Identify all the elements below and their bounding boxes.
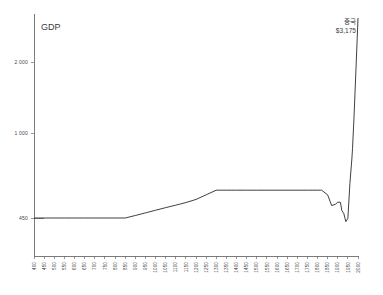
chart-canvas: 2 0001 000450 40045050055060065070075080… xyxy=(0,0,383,295)
x-tick-label: 1300 xyxy=(214,262,219,273)
x-tick-label: 1150 xyxy=(184,262,189,273)
x-axis-group: 4004505005506006507007508008509009501000… xyxy=(32,256,361,273)
y-tick-label: 2 000 xyxy=(14,59,28,65)
x-tick-label: 450 xyxy=(42,262,47,270)
x-tick-label: 500 xyxy=(52,262,57,270)
y-tick-group: 2 0001 000450 xyxy=(14,59,44,221)
x-tick-label: 1200 xyxy=(194,262,199,273)
x-tick-label: 1700 xyxy=(295,262,300,273)
x-tick-label: 2000 xyxy=(356,262,361,273)
x-tick-group: 4004505005506006507007508008509009501000… xyxy=(32,256,361,273)
x-tick-label: 1550 xyxy=(265,262,270,273)
x-tick-label: 800 xyxy=(113,262,118,270)
x-tick-label: 550 xyxy=(62,262,67,270)
x-tick-label: 1850 xyxy=(325,262,330,273)
gdp-chart: 2 0001 000450 40045050055060065070075080… xyxy=(0,0,383,295)
x-tick-label: 1950 xyxy=(346,262,351,273)
y-tick-label: 1 000 xyxy=(14,130,28,136)
china-annotation-label: 중국 xyxy=(344,18,356,26)
x-tick-label: 950 xyxy=(143,262,148,270)
x-tick-label: 650 xyxy=(82,262,87,270)
gdp-line-series xyxy=(34,18,358,222)
x-tick-label: 1600 xyxy=(275,262,280,273)
china-annotation-value: $3,175 xyxy=(336,27,357,34)
x-tick-label: 850 xyxy=(123,262,128,270)
y-tick-label: 450 xyxy=(19,215,28,221)
x-tick-label: 1900 xyxy=(335,262,340,273)
x-tick-label: 1450 xyxy=(244,262,249,273)
x-tick-label: 1650 xyxy=(285,262,290,273)
x-tick-label: 900 xyxy=(133,262,138,270)
y-axis-group: 2 0001 000450 xyxy=(14,14,44,256)
plot-area xyxy=(34,18,358,222)
x-tick-label: 700 xyxy=(92,262,97,270)
x-tick-label: 1750 xyxy=(305,262,310,273)
x-tick-label: 1000 xyxy=(153,262,158,273)
x-tick-label: 750 xyxy=(103,262,108,270)
y-axis-title: GDP xyxy=(41,22,61,32)
x-tick-label: 1800 xyxy=(315,262,320,273)
x-tick-label: 1100 xyxy=(173,262,178,273)
x-tick-label: 1400 xyxy=(234,262,239,273)
x-tick-label: 1350 xyxy=(224,262,229,273)
x-tick-label: 1050 xyxy=(163,262,168,273)
x-tick-label: 1250 xyxy=(204,262,209,273)
x-tick-label: 1500 xyxy=(254,262,259,273)
x-tick-label: 400 xyxy=(32,262,37,270)
x-tick-label: 600 xyxy=(72,262,77,270)
